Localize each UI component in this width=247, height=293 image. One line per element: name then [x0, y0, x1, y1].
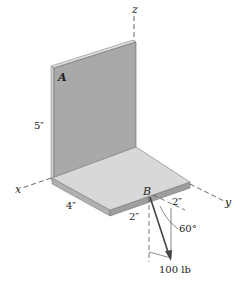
- point-b-label: B: [142, 185, 151, 198]
- point-a-label: A: [57, 71, 67, 84]
- b-front-offset-dimension: 2″: [129, 211, 139, 222]
- force-arrowhead: [165, 250, 172, 261]
- z-axis-label: z: [131, 3, 138, 16]
- angle-arc: [160, 206, 178, 229]
- force-arrow-shaft: [150, 197, 169, 255]
- force-label: 100 lb: [159, 264, 191, 275]
- statics-diagram: z x y A B 5″ 4″ 2″ 2″ 60° 100 lb: [0, 0, 247, 293]
- wall-side-edge: [51, 66, 54, 182]
- b-side-offset-dimension: 2″: [172, 196, 182, 207]
- y-axis-label: y: [224, 196, 232, 209]
- angle-label: 60°: [179, 223, 197, 234]
- wall-height-dimension: 5″: [34, 120, 44, 131]
- plate-x-dimension: 4″: [66, 200, 76, 211]
- y-axis: [190, 184, 224, 201]
- x-axis: [22, 178, 51, 188]
- x-axis-label: x: [15, 183, 22, 196]
